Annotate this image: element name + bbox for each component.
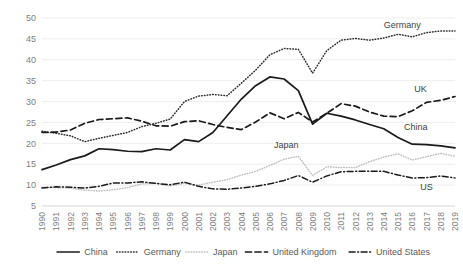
x-axis-tick-2007: 2007	[279, 212, 289, 231]
series-line-china	[42, 77, 455, 170]
x-axis-tick-2001: 2001	[194, 212, 204, 231]
x-axis-tick-1990: 1990	[37, 212, 47, 231]
x-axis-tick-1994: 1994	[94, 212, 104, 231]
x-axis-tick-2015: 2015	[393, 212, 403, 231]
y-axis-tick-30: 30	[26, 97, 36, 107]
x-axis-tick-2000: 2000	[180, 212, 190, 231]
x-axis-tick-1999: 1999	[165, 212, 175, 231]
series-annotation-us: US	[420, 182, 433, 192]
x-axis-tick-2004: 2004	[237, 212, 247, 231]
y-axis-tick-25: 25	[26, 118, 36, 128]
series-annotation-uk: UK	[414, 84, 427, 94]
legend-item-united-states[interactable]: United States	[349, 247, 431, 257]
x-axis-tick-2009: 2009	[308, 212, 318, 231]
x-axis-tick-2002: 2002	[208, 212, 218, 231]
x-axis-tick-1991: 1991	[51, 212, 61, 231]
legend-item-china[interactable]: China	[57, 247, 108, 257]
legend-label-germany: Germany	[144, 247, 182, 257]
series-line-united-states	[42, 171, 455, 189]
legend-item-germany[interactable]: Germany	[117, 247, 182, 257]
y-axis-tick-20: 20	[26, 139, 36, 149]
series-annotation-japan: Japan	[274, 140, 299, 150]
x-axis-tick-2005: 2005	[251, 212, 261, 231]
line-chart: 5101520253035404550199019911992199319941…	[0, 0, 463, 264]
x-axis-tick-2011: 2011	[336, 212, 346, 231]
x-axis-tick-2017: 2017	[422, 212, 432, 231]
y-axis-tick-45: 45	[26, 34, 36, 44]
x-axis-tick-2012: 2012	[351, 212, 361, 231]
x-axis-tick-2013: 2013	[365, 212, 375, 231]
x-axis-tick-1996: 1996	[123, 212, 133, 231]
chart-svg: 5101520253035404550199019911992199319941…	[0, 0, 463, 264]
x-axis-tick-1993: 1993	[80, 212, 90, 231]
legend-label-united-kingdom: United Kingdom	[273, 247, 337, 257]
legend-item-united-kingdom[interactable]: United Kingdom	[246, 247, 337, 257]
x-axis-tick-2018: 2018	[436, 212, 446, 231]
legend-label-japan: Japan	[213, 247, 238, 257]
x-axis-tick-2019: 2019	[450, 212, 460, 231]
y-axis-tick-50: 50	[26, 13, 36, 23]
y-axis-tick-5: 5	[31, 201, 36, 211]
y-axis-tick-35: 35	[26, 76, 36, 86]
x-axis-tick-1998: 1998	[151, 212, 161, 231]
x-axis-tick-2014: 2014	[379, 212, 389, 231]
x-axis-tick-2016: 2016	[407, 212, 417, 231]
legend-label-china: China	[84, 247, 108, 257]
x-axis-tick-2010: 2010	[322, 212, 332, 231]
series-annotation-china: China	[404, 122, 428, 132]
x-axis-tick-1992: 1992	[66, 212, 76, 231]
x-axis-tick-2008: 2008	[294, 212, 304, 231]
x-axis-tick-2003: 2003	[222, 212, 232, 231]
plot-area: 5101520253035404550199019911992199319941…	[0, 0, 463, 264]
x-axis-tick-2006: 2006	[265, 212, 275, 231]
series-annotation-germany: Germany	[384, 20, 422, 30]
x-axis-tick-1997: 1997	[137, 212, 147, 231]
y-axis-tick-40: 40	[26, 55, 36, 65]
legend-label-united-states: United States	[376, 247, 431, 257]
legend-item-japan[interactable]: Japan	[186, 247, 238, 257]
y-axis-tick-10: 10	[26, 180, 36, 190]
x-axis-tick-1995: 1995	[108, 212, 118, 231]
y-axis-tick-15: 15	[26, 159, 36, 169]
